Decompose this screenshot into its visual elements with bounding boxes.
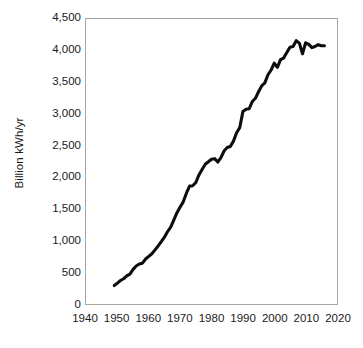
- x-tick-label: 2010: [289, 312, 323, 324]
- y-axis-tick-labels: 05001,0001,5002,0002,5003,0003,5004,0004…: [28, 0, 81, 348]
- x-tick-label: 1980: [195, 312, 229, 324]
- y-axis-title: Billion kWh/yr: [8, 0, 30, 305]
- y-tick-label: 3,500: [52, 76, 81, 88]
- y-tick-label: 1,000: [52, 235, 81, 247]
- series-polyline: [114, 41, 324, 286]
- data-series-line: [86, 19, 337, 304]
- y-tick-label: 2,000: [52, 171, 81, 183]
- x-tick-label: 2000: [258, 312, 292, 324]
- y-tick-label: 1,500: [52, 203, 81, 215]
- x-tick-label: 1940: [68, 312, 102, 324]
- y-tick-label: 0: [75, 299, 81, 311]
- y-tick-label: 500: [62, 267, 81, 279]
- y-axis-title-text: Billion kWh/yr: [13, 117, 25, 188]
- cropped-caption-sliver: [6, 340, 306, 348]
- chart-figure: Billion kWh/yr 05001,0001,5002,0002,5003…: [0, 0, 363, 348]
- plot-area: [85, 18, 338, 305]
- y-tick-label: 2,500: [52, 140, 81, 152]
- x-tick-label: 1970: [163, 312, 197, 324]
- x-tick-label: 1990: [226, 312, 260, 324]
- x-tick-label: 1960: [131, 312, 165, 324]
- x-tick-label: 2020: [321, 312, 355, 324]
- y-tick-label: 4,500: [52, 12, 81, 24]
- y-tick-label: 4,000: [52, 44, 81, 56]
- y-tick-label: 3,000: [52, 108, 81, 120]
- x-tick-label: 1950: [100, 312, 134, 324]
- x-axis-tick-labels: 194019501960197019801990200020102020: [0, 312, 363, 330]
